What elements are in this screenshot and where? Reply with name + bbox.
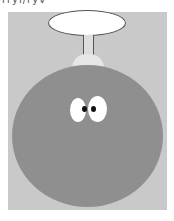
caption-text: rryi/ryv <box>2 0 46 5</box>
left-pupil <box>82 106 87 112</box>
fuse-stem <box>83 35 94 55</box>
right-pupil <box>91 106 96 112</box>
bomb-body <box>12 65 163 207</box>
speech-bubble <box>48 10 126 36</box>
